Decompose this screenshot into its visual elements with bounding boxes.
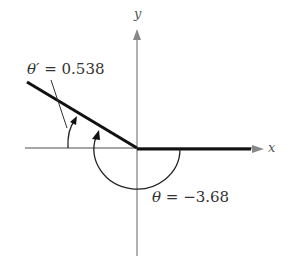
angle-equals: = — [161, 188, 183, 206]
diagram-canvas — [0, 0, 292, 274]
y-axis-label: y — [134, 6, 141, 21]
terminal-side — [27, 82, 137, 148]
theta-arc-arrowhead-icon — [92, 130, 100, 140]
reference-angle-arc — [68, 120, 75, 148]
reference-angle-equals: = — [39, 60, 61, 78]
reference-angle-symbol: θ′ — [27, 60, 39, 78]
y-axis-arrow-icon — [133, 29, 141, 40]
angle-diagram: y x θ′ = 0.538 θ = −3.68 — [0, 0, 292, 274]
angle-symbol: θ — [152, 188, 161, 206]
reference-angle-value: 0.538 — [62, 60, 105, 78]
reference-angle-label: θ′ = 0.538 — [27, 60, 105, 78]
angle-value: −3.68 — [183, 188, 229, 206]
reference-arc-arrowhead-icon — [70, 116, 77, 125]
x-axis-arrow-icon — [252, 145, 264, 153]
angle-label: θ = −3.68 — [152, 188, 229, 206]
y-axis — [133, 29, 141, 256]
x-axis-label: x — [268, 140, 275, 155]
